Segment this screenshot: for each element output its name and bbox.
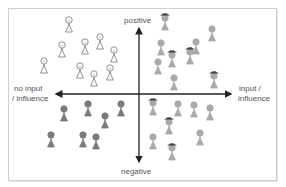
person-icon <box>164 117 174 134</box>
axis-label-no-input-1: no input <box>14 84 42 93</box>
person-icon <box>97 34 104 49</box>
person-icon <box>66 17 73 32</box>
person-icon <box>158 40 165 55</box>
graduation-cap-icon <box>160 13 170 15</box>
axis-label-input-2: influence <box>238 94 270 103</box>
person-icon <box>167 143 177 160</box>
person-icon <box>191 102 198 117</box>
graduation-cap-icon <box>148 98 158 100</box>
person-icon <box>160 13 170 30</box>
person-icon <box>77 63 84 78</box>
axis-label-positive: positive <box>124 16 151 25</box>
person-icon <box>80 132 87 147</box>
person-icon <box>150 134 157 149</box>
graduation-cap-icon <box>209 71 219 73</box>
person-icon <box>91 71 98 86</box>
person-icon <box>107 65 114 80</box>
person-icon <box>207 105 214 120</box>
person-icon <box>185 47 195 64</box>
person-icon <box>48 132 55 147</box>
person-icon <box>111 47 118 62</box>
graduation-cap-icon <box>185 47 195 49</box>
person-icon <box>61 106 68 121</box>
person-icon <box>175 101 182 116</box>
graduation-cap-icon <box>164 117 174 119</box>
person-icon <box>171 75 178 90</box>
person-icon <box>93 134 100 149</box>
axis-label-negative: negative <box>121 167 151 176</box>
person-icon <box>41 58 48 73</box>
person-icon <box>193 39 200 54</box>
person-icon <box>85 101 92 116</box>
person-icon <box>82 39 89 54</box>
graduation-cap-icon <box>167 143 177 145</box>
person-icon <box>59 42 66 57</box>
figures-layer <box>41 13 219 160</box>
person-icon <box>167 50 177 67</box>
person-icon <box>148 98 158 115</box>
graduation-cap-icon <box>167 50 177 52</box>
axis-label-no-input-2: / influence <box>12 94 48 103</box>
person-icon <box>155 59 162 74</box>
person-icon <box>209 26 216 41</box>
person-icon <box>209 71 219 88</box>
person-icon <box>118 101 125 116</box>
person-icon <box>197 130 204 145</box>
person-icon <box>102 113 109 128</box>
axis-label-input-1: input / <box>239 84 261 93</box>
